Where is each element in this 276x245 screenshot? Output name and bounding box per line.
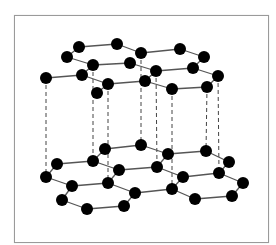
carbon-atom — [40, 72, 52, 84]
carbon-atom — [118, 200, 130, 212]
carbon-atom — [40, 171, 52, 183]
interlayer-link — [218, 76, 219, 173]
carbon-atom — [187, 62, 199, 74]
carbon-atom — [150, 65, 162, 77]
carbon-atom — [223, 156, 235, 168]
carbon-atom — [201, 81, 213, 93]
carbon-atom — [212, 70, 224, 82]
carbon-atom — [151, 161, 163, 173]
carbon-atom — [51, 158, 63, 170]
carbon-atom — [81, 203, 93, 215]
carbon-atom — [189, 193, 201, 205]
carbon-atom — [166, 183, 178, 195]
carbon-atom — [99, 143, 111, 155]
carbon-atom — [73, 41, 85, 53]
carbon-atom — [162, 148, 174, 160]
carbon-atom — [166, 83, 178, 95]
carbon-atom — [113, 164, 125, 176]
carbon-atom — [135, 47, 147, 59]
carbon-atom — [91, 87, 103, 99]
carbon-atom — [129, 187, 141, 199]
carbon-atom — [213, 167, 225, 179]
carbon-atom — [76, 69, 88, 81]
carbon-atom — [198, 51, 210, 63]
graphite-structure-diagram — [0, 0, 276, 245]
carbon-atom — [102, 177, 114, 189]
carbon-atom — [102, 78, 114, 90]
carbon-atom — [139, 75, 151, 87]
carbon-atom — [61, 51, 73, 63]
carbon-atom — [66, 180, 78, 192]
carbon-atom — [124, 57, 136, 69]
carbon-atom — [111, 38, 123, 50]
carbon-atom — [87, 155, 99, 167]
carbon-atom — [177, 171, 189, 183]
carbon-atom — [200, 145, 212, 157]
carbon-atom — [174, 43, 186, 55]
interlayer-link — [156, 71, 157, 167]
carbon-atom — [226, 190, 238, 202]
interlayer-link — [206, 87, 207, 151]
carbon-atom — [56, 194, 68, 206]
carbon-atoms — [40, 38, 249, 215]
carbon-atom — [237, 177, 249, 189]
carbon-atom — [87, 59, 99, 71]
carbon-atom — [135, 139, 147, 151]
